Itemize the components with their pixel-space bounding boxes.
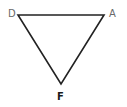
triangle-diagram: D A F bbox=[0, 0, 127, 107]
vertex-label-f: F bbox=[57, 92, 64, 102]
vertex-label-d: D bbox=[8, 9, 16, 19]
triangle-dAF bbox=[18, 15, 104, 84]
vertex-label-a: A bbox=[109, 9, 116, 19]
